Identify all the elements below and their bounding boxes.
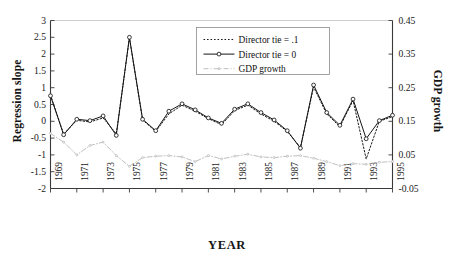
chart-figure: Regression slope GDP growth YEAR 32.521.… [0, 0, 454, 257]
series-marker [167, 109, 171, 113]
series-line [51, 133, 393, 166]
series-marker [364, 137, 368, 141]
series-marker [220, 121, 224, 125]
series-marker [89, 144, 91, 146]
series-marker [193, 108, 197, 112]
series-marker [49, 94, 53, 98]
series-marker [154, 129, 158, 133]
series-marker [50, 132, 52, 134]
chart-legend: Director tie = .1Director tie = 0GDP gro… [197, 28, 330, 75]
series-marker [259, 111, 263, 115]
series-marker [352, 163, 354, 165]
series-marker [128, 35, 132, 39]
series-marker [62, 133, 66, 137]
series-marker [285, 129, 289, 133]
series-marker [207, 155, 209, 157]
series-marker [246, 102, 250, 106]
series-marker [377, 119, 381, 123]
series-marker [351, 97, 355, 101]
series-marker [88, 119, 92, 123]
series-marker [181, 156, 183, 158]
series-marker [365, 163, 367, 165]
series-marker [391, 113, 395, 117]
series-marker [247, 153, 249, 155]
series-marker [260, 156, 262, 158]
legend-marker-sample [218, 68, 220, 70]
plot-area: Director tie = .1Director tie = 0GDP gro… [0, 0, 454, 257]
series-marker [325, 111, 329, 115]
series-marker [155, 155, 157, 157]
series-marker [194, 161, 196, 163]
series-marker [392, 161, 394, 163]
legend-item-label: Director tie = .1 [239, 35, 299, 45]
series-marker [313, 157, 315, 159]
series-marker [299, 155, 301, 157]
series-marker [142, 157, 144, 159]
series-marker [115, 155, 117, 157]
series-marker [286, 155, 288, 157]
legend-item-label: GDP growth [239, 64, 287, 74]
series-marker [128, 165, 130, 167]
series-marker [273, 157, 275, 159]
series-marker [378, 161, 380, 163]
series-marker [114, 134, 118, 138]
series-marker [326, 161, 328, 163]
series-marker [180, 102, 184, 106]
series-marker [168, 155, 170, 157]
legend-marker-sample [217, 52, 221, 56]
series-marker [339, 165, 341, 167]
series-marker [76, 154, 78, 156]
series-marker [141, 117, 145, 121]
legend-item-label: Director tie = 0 [239, 50, 297, 60]
series-marker [272, 118, 276, 122]
series-marker [102, 141, 104, 143]
series-marker [233, 107, 237, 111]
series-marker [234, 155, 236, 157]
series-marker [75, 117, 79, 121]
series-marker [338, 123, 342, 127]
series-marker [63, 141, 65, 143]
series-marker [101, 114, 105, 118]
series-marker [206, 116, 210, 120]
series-marker [312, 83, 316, 87]
series-marker [221, 158, 223, 160]
series-marker [299, 146, 303, 150]
